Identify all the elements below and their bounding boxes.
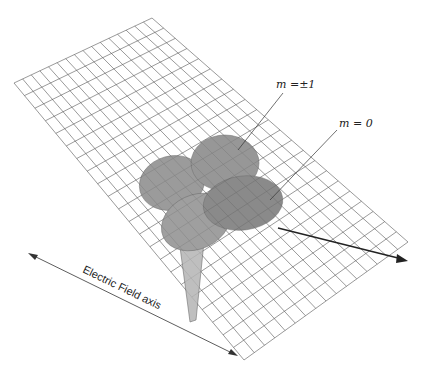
axis-label: Electric Field axis xyxy=(81,263,164,312)
label-m-pm1: m =±1 xyxy=(276,78,315,91)
label-m-0: m = 0 xyxy=(339,117,373,130)
electric-field-axis-arrow xyxy=(28,253,238,356)
leader-m-pm1 xyxy=(238,93,283,150)
orbital-diagram: m =±1 m = 0 Electric Field axis xyxy=(0,0,424,368)
orbital-lobes xyxy=(133,135,286,322)
dipole-arrow xyxy=(278,228,408,263)
